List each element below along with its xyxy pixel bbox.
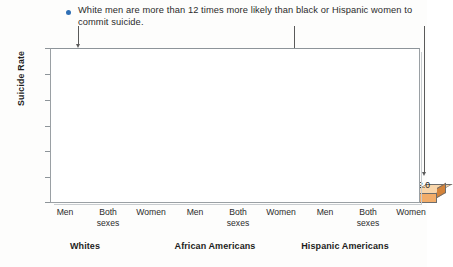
- x-label-line2: sexes: [227, 218, 249, 228]
- x-label-line2: sexes: [357, 218, 379, 228]
- x-label-line2: sexes: [97, 218, 119, 228]
- chart-frame-border: [50, 48, 420, 203]
- x-label-whites-men: Men: [42, 207, 88, 218]
- x-label-line1: Both: [229, 207, 247, 217]
- x-label-hispanic-americans-men: Men: [302, 207, 348, 218]
- x-label-whites-both-sexes: Both sexes: [85, 207, 131, 228]
- figure-caption: White men are more than 12 times more li…: [78, 4, 416, 29]
- group-label-african-americans: African Americans: [150, 241, 280, 251]
- x-label-line1: Both: [99, 207, 117, 217]
- x-label-hispanic-americans-both-sexes: Both sexes: [345, 207, 391, 228]
- x-label-african-americans-women: Women: [258, 207, 304, 218]
- y-axis-title: Suicide Rate: [16, 51, 26, 106]
- group-label-hispanic-americans: Hispanic Americans: [280, 241, 410, 251]
- pointer-arrow-white-men-icon: [78, 26, 79, 45]
- bullet-dot-icon: [66, 10, 71, 15]
- x-label-line1: Both: [359, 207, 377, 217]
- group-label-whites: Whites: [20, 241, 150, 251]
- x-label-african-americans-both-sexes: Both sexes: [215, 207, 261, 228]
- x-label-whites-women: Women: [128, 207, 174, 218]
- x-label-hispanic-americans-women: Women: [388, 207, 434, 218]
- x-label-african-americans-men: Men: [172, 207, 218, 218]
- pointer-arrow-hispanic-women-icon: [424, 26, 425, 173]
